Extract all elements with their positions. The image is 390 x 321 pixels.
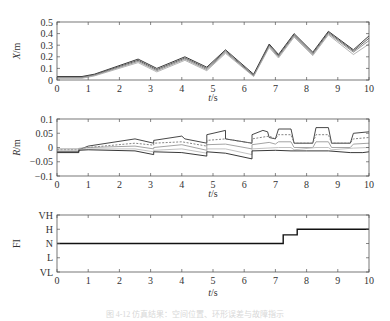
x-tick-label: 3 <box>148 83 153 94</box>
y-tick-label: 0.4 <box>41 28 54 39</box>
x-tick-label: 3 <box>148 275 153 286</box>
y-axis-label: X/m <box>11 42 22 60</box>
x-tick-label: 8 <box>304 179 309 190</box>
y-tick-label: L <box>47 252 53 263</box>
y-tick-label: 0 <box>48 142 53 153</box>
x-tick-label: 7 <box>273 83 278 94</box>
y-tick-label: VL <box>40 267 53 278</box>
y-axis-label: R/m <box>11 139 22 157</box>
y-tick-label: 0.3 <box>41 40 54 51</box>
x-tick-label: 8 <box>304 83 309 94</box>
y-tick-label: 0.2 <box>41 51 54 62</box>
error-plot: 012345678910−0.1−0.0500.050.1t/sR/m <box>11 114 374 200</box>
x-tick-label: 4 <box>179 275 184 286</box>
x-tick-label: 9 <box>335 83 340 94</box>
chart-canvas: 01234567891000.10.20.30.40.5t/sX/m 01234… <box>0 0 390 321</box>
y-tick-label: 0.1 <box>41 63 54 74</box>
x-tick-label: 2 <box>117 83 122 94</box>
series-trace-1 <box>57 31 369 76</box>
x-tick-label: 6 <box>242 179 247 190</box>
x-tick-label: 1 <box>86 83 91 94</box>
x-tick-label: 7 <box>273 179 278 190</box>
x-tick-label: 5 <box>211 275 216 286</box>
x-tick-label: 4 <box>179 83 184 94</box>
x-tick-label: 9 <box>335 275 340 286</box>
y-tick-label: 0.05 <box>36 128 54 139</box>
x-tick-label: 3 <box>148 179 153 190</box>
x-tick-label: 10 <box>364 179 374 190</box>
x-tick-label: 4 <box>179 179 184 190</box>
y-tick-label: 0.1 <box>41 114 54 125</box>
y-tick-label: −0.05 <box>30 156 53 167</box>
x-tick-label: 1 <box>86 275 91 286</box>
x-tick-label: 0 <box>55 179 60 190</box>
y-tick-label: 0.5 <box>41 17 54 28</box>
series-lower <box>57 150 369 159</box>
position-plot: 01234567891000.10.20.30.40.5t/sX/m <box>11 17 374 104</box>
x-tick-label: 0 <box>55 275 60 286</box>
x-tick-label: 6 <box>242 275 247 286</box>
y-tick-label: N <box>46 238 53 249</box>
x-axis-label: t/s <box>208 188 218 199</box>
x-axis-label: t/s <box>208 92 218 103</box>
x-tick-label: 6 <box>242 83 247 94</box>
y-tick-label: H <box>46 224 53 235</box>
x-tick-label: 10 <box>364 275 374 286</box>
x-tick-label: 1 <box>86 179 91 190</box>
y-tick-label: VH <box>39 210 53 221</box>
y-tick-label: −0.1 <box>35 171 53 182</box>
x-tick-label: 2 <box>117 275 122 286</box>
series-FI <box>57 229 369 243</box>
fault-indicator-plot: 012345678910VLLNHVHt/sFI <box>11 210 374 299</box>
figure-caption: 图 4-12 仿真结果：空间位置、环形误差与故障指示 <box>0 308 390 321</box>
x-tick-label: 7 <box>273 275 278 286</box>
x-tick-label: 9 <box>335 179 340 190</box>
y-axis-label: FI <box>11 239 22 248</box>
x-tick-label: 2 <box>117 179 122 190</box>
x-tick-label: 8 <box>304 275 309 286</box>
x-tick-label: 10 <box>364 83 374 94</box>
y-tick-label: 0 <box>48 75 53 86</box>
x-tick-label: 0 <box>55 83 60 94</box>
x-axis-label: t/s <box>208 287 218 298</box>
